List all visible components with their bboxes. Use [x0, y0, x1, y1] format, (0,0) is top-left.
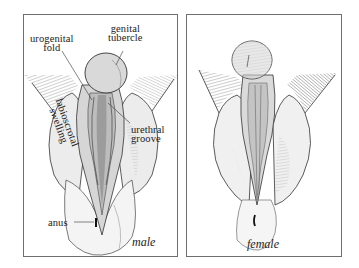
male-panel: urogenital fold genital tubercle labiosc…: [23, 14, 178, 257]
label-urethral-groove-line2: groove: [131, 134, 164, 143]
caption-male: male: [132, 235, 155, 250]
label-genital-tubercle-line2: tubercle: [108, 33, 143, 42]
female-anatomy-illustration: [187, 15, 343, 258]
label-genital-tubercle: genital tubercle: [108, 24, 143, 42]
caption-female: female: [247, 237, 279, 252]
label-anus: anus: [48, 218, 68, 227]
label-urogenital-fold: urogenital fold: [30, 34, 74, 52]
genital-tubercle: [85, 53, 127, 93]
label-urethral-groove: urethral groove: [131, 125, 164, 143]
anus-mark: [254, 215, 255, 226]
female-panel: female: [186, 14, 342, 257]
label-urogenital-fold-line2: fold: [30, 43, 74, 52]
